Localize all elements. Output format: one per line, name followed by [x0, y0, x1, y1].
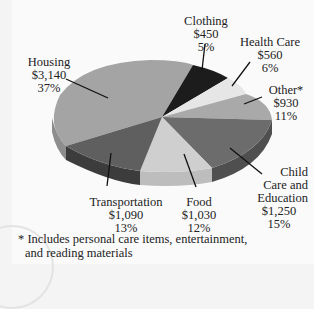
label-transportation: Transportation $1,090 13%	[76, 196, 176, 235]
footnote: * Includes personal care items, entertai…	[18, 232, 247, 260]
label-health-care: Health Care $560 6%	[229, 36, 311, 75]
label-clothing: Clothing $450 5%	[178, 15, 234, 54]
label-food: Food $1,030 12%	[174, 196, 224, 235]
label-other: Other* $930 11%	[261, 84, 311, 123]
label-child-care: Child Care and Education $1,250 15%	[232, 166, 308, 231]
label-housing: Housing $3,140 37%	[14, 56, 84, 95]
